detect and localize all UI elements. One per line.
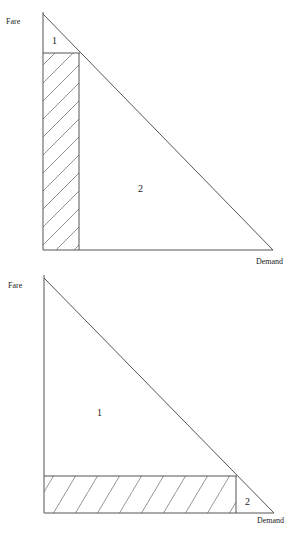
region-label-2: 2 [138,184,143,194]
demand-curve-plot-bottom [0,270,303,540]
y-axis-label: Fare [8,282,22,290]
hatched-revenue-rect [44,476,236,513]
region-label-1: 1 [97,408,102,418]
region-label-1: 1 [52,36,57,46]
y-axis-label: Fare [6,18,20,26]
x-axis-label: Demand [256,258,283,266]
demand-curve-plot-top [0,0,303,270]
hatched-revenue-rect [43,53,79,250]
diagram-low-fare: Fare Demand 1 2 [0,270,303,540]
x-axis-label: Demand [257,517,284,525]
region-label-2: 2 [245,497,250,507]
diagram-high-fare: Fare Demand 1 2 [0,0,303,270]
